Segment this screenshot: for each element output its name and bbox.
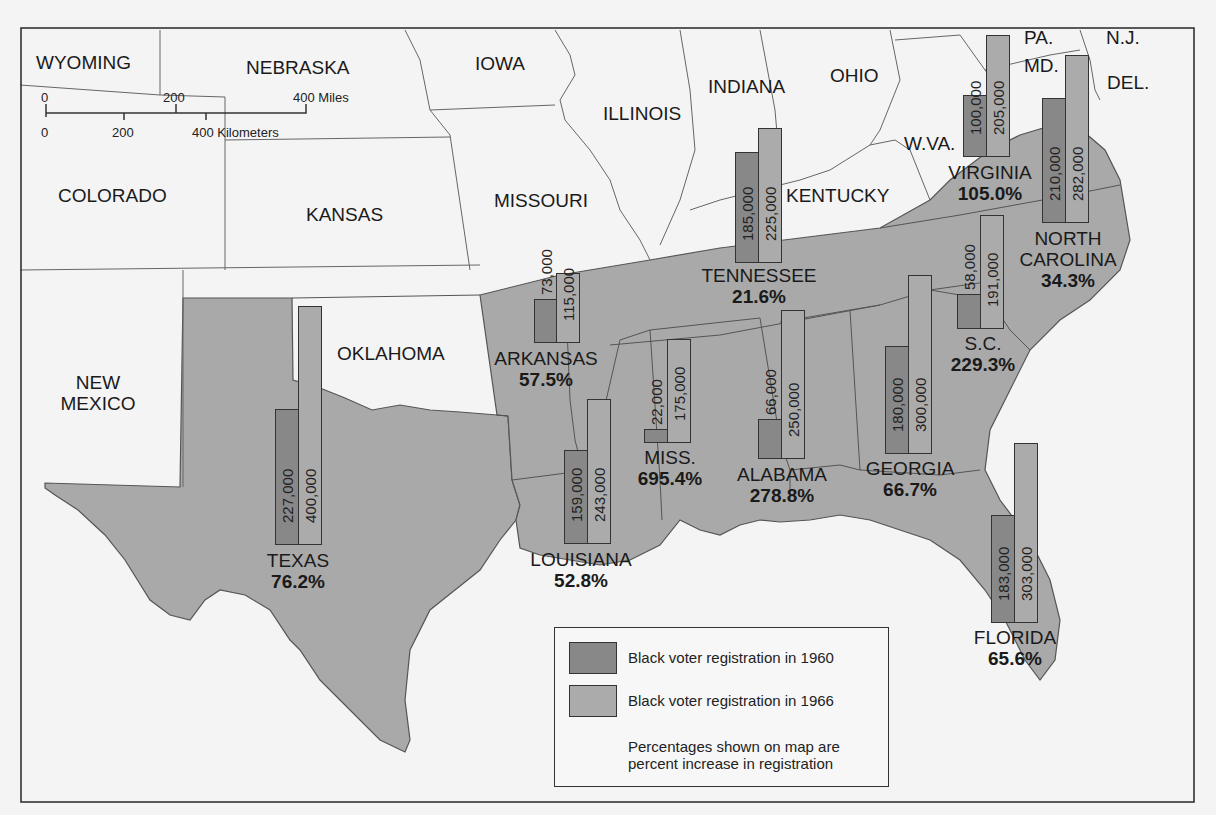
bar-georgia-1966: 300,000 [908, 275, 932, 454]
legend-swatch-1966 [569, 685, 617, 717]
label-illinois: ILLINOIS [603, 103, 681, 124]
label-virginia: VIRGINIA105.0% [948, 162, 1031, 204]
value-mississippi-1960: 22,000 [648, 379, 665, 425]
label-arkansas: ARKANSAS57.5% [494, 348, 597, 390]
label-kentucky: KENTUCKY [786, 185, 889, 206]
bar-arkansas-1960 [534, 299, 557, 343]
label-louisiana: LOUISIANA52.8% [530, 549, 631, 591]
label-md: MD. [1024, 55, 1059, 76]
bar-mississippi-1966: 175,000 [667, 339, 691, 443]
label-kansas: KANSAS [306, 204, 383, 225]
bar-tennessee-1966: 225,000 [758, 128, 782, 263]
label-indiana: INDIANA [708, 76, 785, 97]
bar-nc-1960: 210,000 [1042, 98, 1066, 223]
label-florida: FLORIDA65.6% [974, 627, 1056, 669]
label-nj: N.J. [1106, 27, 1140, 48]
label-new-mexico: NEW MEXICO [53, 372, 143, 414]
bar-louisiana-1966: 243,000 [587, 399, 611, 544]
bar-tennessee-1960: 185,000 [735, 152, 759, 263]
bar-louisiana-1960: 159,000 [564, 450, 588, 544]
bar-florida-1960: 183,000 [991, 515, 1015, 623]
legend-label-1960: Black voter registration in 1960 [628, 649, 834, 666]
bar-mississippi-1960 [644, 429, 668, 443]
label-iowa: IOWA [475, 53, 525, 74]
label-mississippi: MISS.695.4% [638, 447, 702, 489]
label-wyoming: WYOMING [36, 52, 131, 73]
scale-km-400: 400 Kilometers [192, 125, 279, 140]
label-colorado: COLORADO [58, 185, 167, 206]
value-sc-1960: 58,000 [961, 244, 978, 290]
bar-virginia-1966: 205,000 [986, 35, 1010, 157]
bar-sc-1960 [957, 294, 981, 329]
label-nebraska: NEBRASKA [246, 57, 349, 78]
scale-miles-0: 0 [41, 90, 48, 105]
scale-km-200: 200 [112, 125, 134, 140]
bar-florida-1966: 303,000 [1014, 443, 1038, 623]
bar-alabama-1966: 250,000 [781, 310, 805, 459]
label-ohio: OHIO [830, 65, 879, 86]
bar-texas-1966: 400,000 [298, 306, 322, 545]
label-pa: PA. [1024, 27, 1053, 48]
legend-note: Percentages shown on map are percent inc… [628, 738, 883, 772]
label-sc: S.C.229.3% [951, 333, 1015, 375]
legend: Black voter registration in 1960 Black v… [554, 627, 889, 787]
bar-nc-1966: 282,000 [1065, 55, 1089, 223]
label-wva: W.VA. [904, 133, 955, 154]
value-arkansas-1960: 73,000 [538, 249, 555, 295]
bar-sc-1966: 191,000 [980, 215, 1004, 329]
label-del: DEL. [1107, 72, 1149, 93]
label-nc: NORTH CAROLINA34.3% [1008, 228, 1128, 291]
label-oklahoma: OKLAHOMA [337, 343, 445, 364]
label-alabama: ALABAMA278.8% [737, 464, 827, 506]
scale-miles-200: 200 [163, 90, 185, 105]
label-texas: TEXAS76.2% [267, 550, 329, 592]
label-georgia: GEORGIA66.7% [866, 458, 955, 500]
scale-miles-400: 400 Miles [293, 90, 349, 105]
scale-km-0: 0 [41, 125, 48, 140]
legend-swatch-1960 [569, 642, 617, 674]
bar-virginia-1960: 100,000 [963, 95, 987, 157]
label-missouri: MISSOURI [494, 190, 588, 211]
label-tennessee: TENNESSEE21.6% [701, 265, 816, 307]
bar-alabama-1960 [758, 419, 782, 459]
value-alabama-1960: 66,000 [762, 369, 779, 415]
bar-georgia-1960: 180,000 [885, 346, 909, 454]
legend-label-1966: Black voter registration in 1966 [628, 692, 834, 709]
bar-arkansas-1966: 115,000 [556, 273, 580, 343]
bar-texas-1960: 227,000 [275, 409, 299, 545]
